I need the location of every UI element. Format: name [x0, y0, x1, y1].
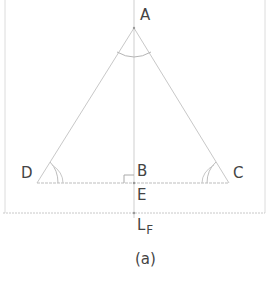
point-b	[133, 182, 135, 184]
point-a	[133, 27, 135, 29]
angle-arc-c-1	[207, 162, 216, 183]
figure-caption: (a)	[135, 250, 156, 268]
label-lf-main: L	[137, 216, 145, 234]
point-f	[133, 212, 135, 214]
label-b: B	[137, 164, 147, 179]
label-a: A	[140, 8, 150, 23]
label-d: D	[21, 166, 33, 181]
label-c: C	[233, 166, 243, 181]
right-angle-mark-b	[124, 175, 134, 183]
label-e: E	[137, 188, 146, 203]
side-ac	[134, 28, 229, 183]
angle-arc-d-1	[50, 162, 58, 183]
side-ad	[37, 28, 134, 183]
label-lf-subscript: F	[146, 223, 153, 237]
label-lf: LF	[137, 218, 152, 233]
